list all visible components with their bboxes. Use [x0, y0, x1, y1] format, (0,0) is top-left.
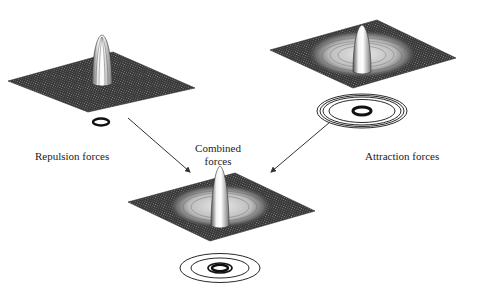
repulsion-label: Repulsion forces — [35, 150, 109, 163]
attraction-surface — [270, 20, 456, 88]
combined-contour — [180, 254, 260, 283]
attraction-label: Attraction forces — [365, 150, 439, 163]
combined-label-line1: Combined — [188, 142, 248, 155]
repulsion-surface — [8, 35, 195, 112]
combined-surface — [128, 166, 315, 241]
attraction-contour — [317, 94, 407, 128]
combined-label-line2: forces — [188, 155, 248, 168]
repulsion-contour — [93, 119, 109, 126]
attraction-arrow — [271, 122, 330, 172]
combined-label: Combined forces — [188, 142, 248, 168]
repulsion-arrow — [128, 118, 190, 172]
